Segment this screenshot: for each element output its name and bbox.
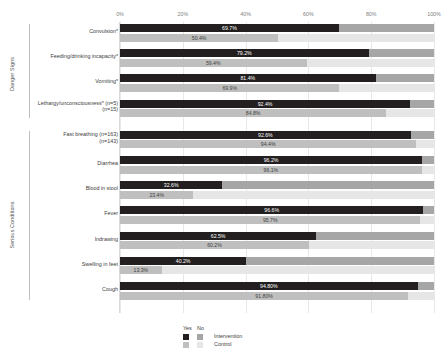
bar-intervention: 94.80% [120, 282, 434, 290]
data-label: 96.1% [264, 167, 279, 173]
bar-intervention: 40.2% [120, 257, 434, 265]
chart-row: Blood in stool32.6%23.4% [120, 181, 434, 206]
legend-swatch-intervention-yes [183, 334, 189, 340]
bar-control: 94.4% [120, 140, 434, 148]
bar-segment-control-no [416, 140, 434, 148]
data-label: 96.2% [264, 157, 279, 163]
data-label: 96.6% [264, 207, 279, 213]
data-label: 94.4% [261, 141, 276, 147]
gridline [434, 22, 435, 313]
bar-intervention: 32.6% [120, 181, 434, 189]
bar-control: 50.4% [120, 34, 434, 42]
data-label: 32.6% [164, 182, 179, 188]
x-axis-tick-label: 40% [240, 11, 251, 17]
bar-control: 13.3% [120, 266, 434, 274]
legend-swatch-intervention-no [197, 334, 203, 340]
bar-segment-control-no [162, 266, 434, 274]
chart-row: Fast breathing (n=163)(n=143)92.6%94.4% [120, 131, 434, 156]
chart-row: Cough94.80%91.80% [120, 282, 434, 307]
x-axis-tick-label: 100% [427, 11, 441, 17]
bar-control: 59.4% [120, 59, 434, 67]
legend-header-no: No [197, 325, 204, 331]
data-label: 40.2% [176, 258, 191, 264]
data-label: 60.2% [207, 242, 222, 248]
bar-intervention: 92.6% [120, 131, 434, 139]
data-label: 69.7% [222, 25, 237, 31]
bar-segment-control-no [278, 34, 434, 42]
category-label: Blood in stool [86, 185, 118, 191]
bar-segment-intervention-no [246, 257, 434, 265]
category-label: Fever [104, 210, 118, 216]
x-axis-tick-label: 60% [303, 11, 314, 17]
chart-row: Feeding/drinking incapacity*79.2%59.4% [120, 49, 434, 74]
bar-control: 96.1% [120, 166, 434, 174]
category-label: Fast breathing (n=163)(n=143) [63, 131, 118, 143]
bar-segment-intervention-no [339, 24, 434, 32]
chart-row: Vomiting*81.4%69.9% [120, 74, 434, 99]
group-axis-title-serious-conditions: Serious Conditions [9, 189, 15, 261]
bar-control: 23.4% [120, 191, 434, 199]
data-label: 59.4% [206, 60, 221, 66]
bar-control: 60.2% [120, 241, 434, 249]
category-label: Vomiting* [95, 78, 118, 84]
bar-segment-intervention-no [410, 100, 434, 108]
bar-segment-intervention-no [423, 206, 434, 214]
bar-control: 95.7% [120, 216, 434, 224]
bar-intervention: 96.2% [120, 156, 434, 164]
category-label: Indrawing [95, 236, 118, 242]
bar-control: 91.80% [120, 292, 434, 300]
category-label: Cough [102, 286, 118, 292]
chart-row: Convulsion*69.7%50.4% [120, 24, 434, 49]
bar-control: 69.9% [120, 84, 434, 92]
data-label: 23.4% [149, 192, 164, 198]
data-label: 79.2% [237, 50, 252, 56]
chart-row: Indrawing62.5%60.2% [120, 232, 434, 257]
bar-segment-control-no [193, 191, 434, 199]
category-label: Lethargy/unconsciousness* (n=5)(n=15) [38, 100, 118, 112]
bar-segment-intervention-no [376, 74, 434, 82]
data-label: 62.5% [211, 233, 226, 239]
x-axis-tick-label: 80% [366, 11, 377, 17]
category-label: Diarrhea [97, 160, 118, 166]
bar-segment-control-no [386, 109, 434, 117]
data-label: 92.6% [258, 132, 273, 138]
x-axis-tick-label: 20% [177, 11, 188, 17]
group-axis-title-danger-signs: Danger Signs [9, 44, 15, 104]
bar-intervention: 62.5% [120, 232, 434, 240]
bar-segment-control-no [307, 59, 434, 67]
plot-area: 0%20%40%60%80%100%Convulsion*69.7%50.4%F… [120, 22, 434, 313]
category-sublabel: (n=143) [63, 138, 118, 144]
chart-row: Lethargy/unconsciousness* (n=5)(n=15)92.… [120, 100, 434, 125]
bar-intervention: 96.6% [120, 206, 434, 214]
group-bracket-line [29, 24, 30, 118]
data-label: 95.7% [263, 217, 278, 223]
stacked-bar-chart: Danger Signs Serious Conditions 0%20%40%… [0, 0, 447, 356]
data-label: 13.3% [134, 267, 149, 273]
data-label: 69.9% [222, 85, 237, 91]
bar-segment-control-no [422, 166, 434, 174]
data-label: 84.8% [246, 110, 261, 116]
legend-label-intervention: Intervention [214, 333, 242, 339]
category-label: Feeding/drinking incapacity* [51, 53, 118, 59]
bar-segment-control-no [309, 241, 434, 249]
bar-segment-intervention-no [411, 131, 434, 139]
data-label: 94.80% [260, 283, 278, 289]
bar-segment-control-no [339, 84, 434, 92]
data-label: 92.4% [258, 101, 273, 107]
group-bracket-line [29, 131, 30, 300]
data-label: 50.4% [192, 35, 207, 41]
bar-segment-control-no [408, 292, 434, 300]
category-sublabel: (n=15) [38, 106, 118, 112]
category-label: Convulsion* [89, 28, 118, 34]
bar-intervention: 69.7% [120, 24, 434, 32]
bar-segment-intervention-no [222, 181, 434, 189]
legend-header-yes: Yes [183, 325, 192, 331]
bar-segment-intervention-no [422, 156, 434, 164]
bar-segment-intervention-no [418, 282, 434, 290]
legend-swatch-control-yes [183, 342, 189, 348]
bar-segment-intervention-no [316, 232, 434, 240]
bar-intervention: 81.4% [120, 74, 434, 82]
chart-row: Fever96.6%95.7% [120, 206, 434, 231]
chart-row: Swelling in feet40.2%13.3% [120, 257, 434, 282]
bar-intervention: 92.4% [120, 100, 434, 108]
